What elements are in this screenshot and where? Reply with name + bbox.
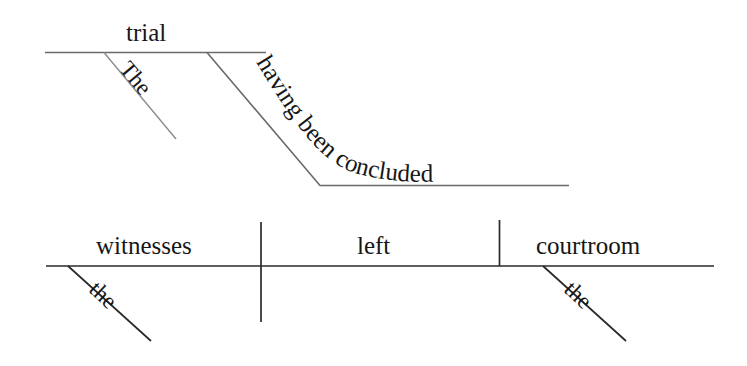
absolute-phrase-noun-trial: trial	[126, 20, 166, 45]
verb-left: left	[357, 233, 390, 258]
subject-witnesses: witnesses	[96, 233, 192, 258]
diagram-lines: having been concluded	[0, 0, 747, 366]
participle-textpath: having been concluded	[252, 51, 434, 187]
participle-text: having been concluded	[252, 51, 434, 187]
object-courtroom: courtroom	[536, 233, 640, 258]
sentence-diagram: having been concluded trial The witnesse…	[0, 0, 747, 366]
